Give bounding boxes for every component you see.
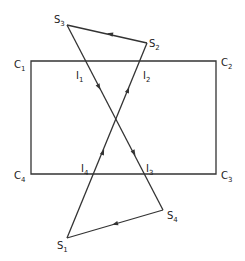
label-c1: C1 [14, 59, 25, 73]
label-c2: C2 [221, 57, 232, 71]
label-s2: S2 [149, 38, 160, 52]
label-c3: C3 [221, 170, 232, 184]
edge-s1-s2 [67, 43, 147, 238]
polygon-edges [67, 25, 163, 238]
arrowhead-icon [112, 221, 119, 227]
label-c4: C4 [14, 170, 26, 184]
label-i2: I2 [143, 70, 150, 84]
label-i3: I3 [146, 163, 153, 177]
label-i4: I4 [81, 163, 89, 177]
edge-s3-s4 [67, 25, 163, 210]
edge-s2-s3 [67, 25, 147, 43]
diagram-svg: C1C2C3C4S1S2S3S4I1I2I3I4 [0, 0, 245, 261]
label-s3: S3 [54, 14, 65, 28]
diagram-canvas: C1C2C3C4S1S2S3S4I1I2I3I4 [0, 0, 245, 261]
label-i1: I1 [76, 70, 83, 84]
arrowhead-icon [96, 83, 103, 90]
arrowhead-icon [125, 86, 131, 93]
label-s4: S4 [167, 210, 178, 224]
label-s1: S1 [57, 240, 68, 254]
rectangle [31, 61, 216, 174]
rectangle-outline [31, 61, 216, 174]
